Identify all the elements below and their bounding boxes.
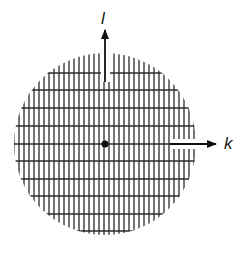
hatched-disc-diagram [0, 0, 246, 253]
axes [105, 30, 216, 144]
axis-label-k: k [224, 135, 233, 152]
axis-label-l: l [101, 10, 105, 27]
center-point [102, 141, 109, 148]
